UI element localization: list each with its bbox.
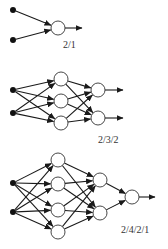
input-node [10, 37, 16, 43]
output-neuron [91, 83, 105, 97]
input-node [10, 180, 16, 186]
hidden-neuron [51, 225, 65, 239]
hidden-neuron [54, 94, 68, 108]
connection-arrow [16, 114, 54, 122]
hidden-neuron [54, 72, 68, 86]
input-node [10, 209, 16, 215]
connection-arrow [15, 185, 53, 226]
connection-arrow [16, 30, 51, 39]
input-node [10, 110, 16, 116]
output-neuron [91, 111, 105, 125]
connection-arrow [16, 210, 51, 212]
diagram-label: 2/1 [63, 39, 76, 50]
connection-arrow [65, 210, 93, 212]
hidden-neuron [51, 153, 65, 167]
hidden-neuron [51, 177, 65, 191]
connection-arrow [68, 81, 91, 88]
network-diagram-2-1 [10, 7, 82, 43]
diagram-label: 2/4/2/1 [121, 224, 149, 235]
connection-arrow [64, 184, 94, 206]
connection-arrow [16, 183, 51, 184]
connection-arrow [106, 183, 125, 193]
hidden-neuron [51, 203, 65, 217]
connection-arrow [16, 163, 52, 181]
output-neuron [51, 21, 65, 35]
connection-arrow [68, 119, 91, 122]
network-diagram-2-3-2 [10, 72, 123, 130]
hidden-neuron [93, 173, 107, 187]
neural-network-diagrams: 2/1 2/3/2 2/4/2/1 [0, 0, 168, 249]
connection-arrow [16, 11, 51, 25]
connection-arrow [64, 163, 93, 177]
connection-arrow [65, 181, 93, 184]
input-node [10, 7, 16, 13]
hidden-neuron [54, 116, 68, 130]
connection-arrow [106, 200, 125, 210]
output-neuron [125, 190, 139, 204]
connection-arrow [67, 104, 91, 115]
hidden-neuron [93, 206, 107, 220]
input-node [10, 87, 16, 93]
connection-arrow [16, 213, 51, 229]
diagram-label: 2/3/2 [98, 134, 119, 145]
